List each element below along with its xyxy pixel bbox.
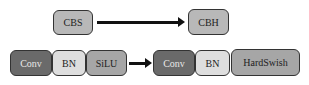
bn-label: BN [62, 58, 76, 69]
conv-label: Conv [163, 58, 185, 69]
bn-label: BN [206, 58, 220, 69]
silu-block: SiLU [86, 50, 127, 76]
top-arrow-icon [97, 21, 179, 24]
bottom-arrow-icon [129, 62, 146, 65]
cbh-block: CBH [188, 9, 229, 35]
conv-block-before: Conv [10, 50, 52, 76]
bn-block-before: BN [52, 50, 86, 76]
hardswish-block: HardSwish [231, 49, 300, 76]
cbs-block: CBS [53, 10, 93, 35]
conv-block-after: Conv [153, 50, 195, 76]
bn-block-after: BN [195, 50, 230, 76]
hardswish-label: HardSwish [243, 57, 287, 68]
cbh-label: CBH [198, 17, 219, 28]
cbs-label: CBS [64, 17, 83, 28]
silu-label: SiLU [96, 58, 118, 69]
conv-label: Conv [20, 58, 42, 69]
